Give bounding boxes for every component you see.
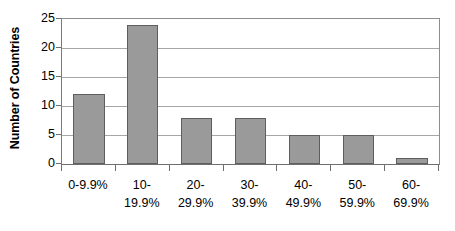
y-axis-tick-labels: 2520151050 — [31, 10, 57, 170]
bar — [73, 94, 104, 164]
y-axis-tick-label: 15 — [41, 69, 55, 83]
x-axis-tick-mark — [438, 164, 439, 171]
x-axis-category-label: 50- 59.9% — [330, 174, 384, 226]
x-axis-category-label: 10- 19.9% — [115, 174, 169, 226]
x-axis-category-label: 0-9.9% — [61, 174, 115, 226]
x-axis-tick-labels: 0-9.9%10- 19.9%20- 29.9%30- 39.9%40- 49.… — [61, 174, 438, 226]
bar — [343, 135, 374, 164]
bar — [235, 118, 266, 164]
x-axis-tick-mark — [384, 164, 385, 171]
x-axis-tick-marks — [61, 164, 440, 171]
x-axis-tick-mark — [115, 164, 116, 171]
x-axis-tick-mark — [330, 164, 331, 171]
bar-slot — [116, 19, 170, 164]
y-axis-title: Number of Countries — [0, 0, 31, 175]
y-axis-title-text: Number of Countries — [9, 26, 23, 148]
x-axis-tick-mark — [169, 164, 170, 171]
bar-chart: Number of Countries 2520151050 0-9.9%10-… — [0, 0, 455, 231]
bar-slot — [277, 19, 331, 164]
x-axis-category-label: 60- 69.9% — [384, 174, 438, 226]
x-axis-category-label: 20- 29.9% — [169, 174, 223, 226]
x-axis-category-label: 30- 39.9% — [223, 174, 277, 226]
x-axis-category-label: 40- 49.9% — [276, 174, 330, 226]
bar-slot — [331, 19, 385, 164]
bar-slot — [170, 19, 224, 164]
bars-layer — [62, 19, 439, 164]
bar — [289, 135, 320, 164]
y-axis-tick-label: 25 — [41, 11, 55, 25]
y-axis-tick-label: 20 — [41, 40, 55, 54]
bar-slot — [385, 19, 439, 164]
bar — [181, 118, 212, 164]
y-axis-tick-label: 10 — [41, 98, 55, 112]
y-axis-tick-label: 0 — [48, 156, 55, 170]
x-axis-tick-mark — [61, 164, 62, 171]
plot-area — [61, 18, 440, 165]
bar — [127, 25, 158, 164]
bar-slot — [224, 19, 278, 164]
bar-slot — [62, 19, 116, 164]
x-axis-tick-mark — [223, 164, 224, 171]
x-axis-tick-mark — [276, 164, 277, 171]
y-axis-tick-label: 5 — [48, 127, 55, 141]
